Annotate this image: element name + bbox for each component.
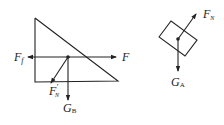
label-normal-reaction: F′N <box>48 83 60 98</box>
block-center-point <box>176 37 180 41</box>
wedge-triangle <box>35 18 118 82</box>
normal-force-arrow <box>178 14 196 39</box>
block-figure: FN GA <box>159 7 215 89</box>
label-normal-force: FN <box>202 7 215 21</box>
application-point <box>66 55 70 59</box>
label-weight-b: GB <box>63 101 77 115</box>
label-friction: Ff <box>13 50 25 65</box>
label-weight-a: GA <box>171 75 185 89</box>
wedge-figure: Ff F F′N GB <box>13 18 130 115</box>
normal-reaction-arrow <box>51 57 68 83</box>
force-diagram: Ff F F′N GB FN GA <box>0 0 224 125</box>
label-applied-force: F <box>121 50 130 64</box>
